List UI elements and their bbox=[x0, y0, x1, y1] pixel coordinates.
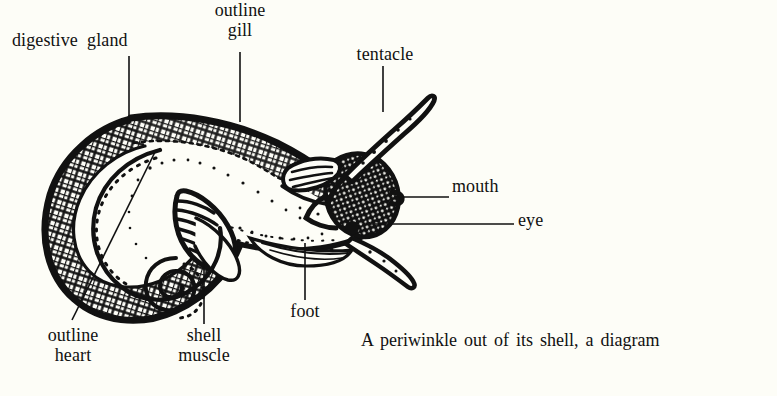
figure-page: digestive gland outlinegill tentacle mou… bbox=[0, 0, 777, 396]
label-outline-gill-line1: outline bbox=[215, 0, 266, 20]
label-tentacle: tentacle bbox=[357, 45, 414, 64]
label-eye: eye bbox=[518, 211, 543, 230]
label-mouth: mouth bbox=[452, 177, 499, 196]
label-outline-gill-line2: gill bbox=[228, 20, 252, 40]
label-outline-heart-line1: outline bbox=[48, 325, 99, 345]
label-outline-heart: outlineheart bbox=[48, 325, 99, 365]
label-shell-muscle-line1: shell bbox=[187, 325, 222, 345]
label-digestive-gland: digestive gland bbox=[12, 31, 128, 50]
eye-marker bbox=[345, 221, 359, 235]
label-shell-muscle: shellmuscle bbox=[178, 325, 230, 365]
siphon bbox=[346, 238, 415, 288]
label-outline-heart-line2: heart bbox=[55, 345, 91, 365]
label-foot: foot bbox=[290, 302, 319, 321]
label-outline-gill: outlinegill bbox=[215, 0, 266, 40]
figure-caption: A periwinkle out of its shell, a diagram bbox=[361, 330, 659, 351]
label-shell-muscle-line2: muscle bbox=[178, 345, 230, 365]
